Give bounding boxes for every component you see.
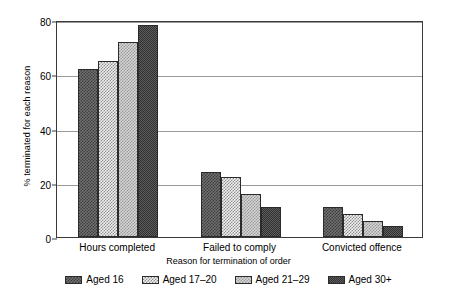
bar xyxy=(201,172,221,237)
legend-swatch xyxy=(235,276,252,284)
x-axis-title: Reason for termination of order xyxy=(0,256,457,266)
legend-item: Aged 16 xyxy=(65,274,123,285)
legend-label: Aged 21–29 xyxy=(256,274,310,285)
y-axis-tick-mark xyxy=(52,239,57,240)
y-axis-title: % terminated for each reason xyxy=(22,6,32,246)
x-axis-category-label: Hours completed xyxy=(79,242,155,253)
legend-swatch xyxy=(328,276,345,284)
legend-label: Aged 17–20 xyxy=(163,274,217,285)
legend-item: Aged 21–29 xyxy=(235,274,310,285)
bar xyxy=(138,25,158,237)
plot-area: 020406080 xyxy=(56,21,423,238)
bar xyxy=(383,226,403,237)
bar xyxy=(363,221,383,237)
bar xyxy=(343,214,363,237)
bar xyxy=(78,69,98,237)
legend-item: Aged 30+ xyxy=(328,274,392,285)
legend-swatch xyxy=(65,276,82,284)
legend-swatch xyxy=(142,276,159,284)
legend-item: Aged 17–20 xyxy=(142,274,217,285)
bar xyxy=(241,194,261,237)
legend-label: Aged 16 xyxy=(86,274,123,285)
bar xyxy=(323,207,343,237)
bar xyxy=(261,207,281,237)
legend-label: Aged 30+ xyxy=(349,274,392,285)
bar-chart: % terminated for each reason 020406080 H… xyxy=(0,0,457,302)
bar xyxy=(118,42,138,237)
bar xyxy=(98,61,118,237)
x-axis-category-label: Failed to comply xyxy=(203,242,276,253)
x-axis-category-label: Convicted offence xyxy=(322,242,402,253)
legend: Aged 16Aged 17–20Aged 21–29Aged 30+ xyxy=(0,274,457,285)
bars-layer xyxy=(57,22,422,237)
bar xyxy=(221,177,241,237)
